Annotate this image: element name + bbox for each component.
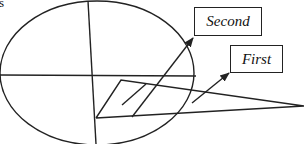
- label-second-text: Second: [206, 13, 249, 30]
- arrow-to-first: [192, 73, 229, 103]
- label-first-text: First: [242, 51, 271, 68]
- wedge-shape: [96, 80, 304, 118]
- horizontal-axis-line: [0, 75, 196, 76]
- label-second: Second: [194, 7, 262, 36]
- ellipse-outline: [0, 1, 194, 144]
- label-first: First: [230, 45, 283, 73]
- inner-stroke-line: [122, 84, 146, 105]
- vertical-axis-line: [88, 1, 96, 144]
